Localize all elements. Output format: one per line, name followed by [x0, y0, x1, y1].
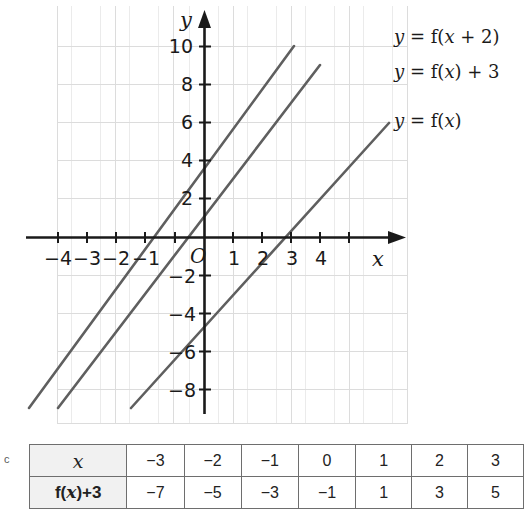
y-tick-label: −6	[168, 341, 196, 363]
x-tick-label: −3	[73, 247, 101, 269]
y-tick-label: 4	[181, 149, 193, 171]
curve-label-f-of-x-plus-2: y = f(x + 2)	[393, 26, 500, 47]
y-axis-arrowhead	[198, 10, 211, 28]
x-tick-label: −1	[132, 247, 160, 269]
table-cell: −3	[127, 445, 184, 477]
table-cell: 1	[356, 445, 412, 477]
table-cell: −7	[127, 477, 184, 509]
grid-lines-minor	[72, 6, 393, 424]
x-tick-label: 4	[315, 247, 327, 269]
y-tick-label: −8	[168, 379, 196, 401]
line-f-of-x-plus-2	[29, 46, 294, 408]
table-cell: −5	[184, 477, 241, 509]
axes	[26, 22, 392, 414]
x-tick-label: −2	[102, 247, 130, 269]
y-tick-label: 8	[181, 73, 193, 95]
table-cell: −1	[298, 477, 355, 509]
x-axis-label: x	[372, 247, 384, 271]
table-cell: −1	[241, 445, 298, 477]
x-tick-label: 2	[257, 247, 269, 269]
table-cell: 1	[356, 477, 412, 509]
value-table-block: c x −3 −2 −1 0 1 2 3 f(x)+3 −7 −5 −3 −1 …	[0, 440, 524, 510]
table-cell: −3	[241, 477, 298, 509]
table-cell: 5	[467, 477, 523, 509]
table-cell: −2	[184, 445, 241, 477]
y-tick-label: 6	[181, 111, 193, 133]
x-tick-label: −4	[44, 247, 72, 269]
row-header-x: x	[30, 445, 127, 477]
table-row: f(x)+3 −7 −5 −3 −1 1 3 5	[30, 477, 524, 509]
y-axis-label: y	[179, 8, 193, 32]
y-tick-label: −2	[168, 265, 196, 287]
y-tick-label: 2	[181, 187, 193, 209]
part-letter-label: c	[4, 453, 10, 465]
x-tick-label: 3	[286, 247, 298, 269]
function-value-table: x −3 −2 −1 0 1 2 3 f(x)+3 −7 −5 −3 −1 1 …	[29, 444, 524, 509]
table-row: x −3 −2 −1 0 1 2 3	[30, 445, 524, 477]
row-header-fx-plus-3: f(x)+3	[30, 477, 127, 509]
table-cell: 3	[412, 477, 468, 509]
graph-figure: −4 −3 −2 −1 1 2 3 4 10 8 6 4 2 −2 −4 −6 …	[0, 0, 524, 432]
y-tick-label: −4	[168, 303, 196, 325]
table-cell: 2	[412, 445, 468, 477]
table-cell: 3	[467, 445, 523, 477]
x-axis-arrowhead	[388, 231, 406, 244]
curve-label-f-of-x-plus-3: y = f(x) + 3	[393, 61, 500, 82]
table-cell: 0	[298, 445, 355, 477]
origin-label: O	[190, 244, 206, 268]
curve-label-f-of-x: y = f(x)	[393, 110, 462, 131]
y-axis-tick-labels: 10 8 6 4 2 −2 −4 −6 −8	[168, 35, 196, 401]
y-tick-label: 10	[169, 35, 193, 57]
x-tick-label: 1	[228, 247, 240, 269]
coordinate-plane: −4 −3 −2 −1 1 2 3 4 10 8 6 4 2 −2 −4 −6 …	[0, 0, 524, 432]
grid-lines-major	[57, 6, 408, 424]
